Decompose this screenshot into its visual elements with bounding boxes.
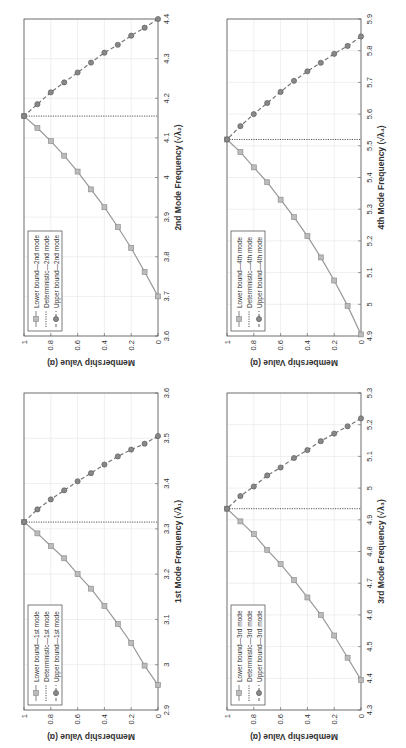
lower-bound-marker (156, 683, 161, 688)
lower-bound-marker (318, 612, 323, 617)
legend-entry: Upper bound—2nd mode (53, 235, 61, 308)
chart-panel-mode2: 3.63.73.83.944.14.24.34.400.20.40.60.812… (0, 0, 203, 374)
legend-entry: Upper bound—4th mode (256, 236, 264, 308)
upper-bound-marker (142, 441, 147, 446)
lower-bound-marker (48, 544, 53, 549)
lower-bound-marker (251, 165, 256, 170)
upper-bound-marker (21, 519, 26, 524)
x-tick-label: 5.1 (365, 267, 374, 277)
x-tick-label: 3.8 (162, 252, 171, 262)
legend-entry: Deterministic—3rd mode (246, 610, 253, 682)
upper-bound-marker (358, 34, 363, 39)
y-tick-label: 0.4 (100, 714, 109, 724)
upper-bound-marker (62, 488, 67, 493)
legend: Lower bound—4th modeDeterministic—4th mo… (231, 231, 265, 331)
legend-entry: Deterministic—2nd mode (43, 235, 50, 308)
y-tick-label: 1 (20, 714, 29, 718)
y-axis-label: Membership Value (α) (47, 732, 135, 742)
upper-bound-marker (75, 479, 80, 484)
upper-bound-marker (332, 51, 337, 56)
lower-bound-marker (102, 603, 107, 608)
upper-bound-marker (115, 42, 120, 47)
upper-bound-marker (155, 16, 160, 21)
legend-entry: Upper bound—1st mode (53, 611, 61, 682)
legend-entry: Lower bound—4th mode (236, 236, 243, 308)
lower-bound-marker (305, 595, 310, 600)
y-tick-label: 0.6 (73, 340, 82, 350)
y-tick-label: 0.8 (249, 340, 258, 350)
lower-bound-marker (129, 640, 134, 645)
upper-bound-marker (102, 50, 107, 55)
upper-bound-marker (155, 433, 160, 438)
legend-entry: Deterministic—1st mode (43, 611, 50, 682)
upper-bound-marker (35, 102, 40, 107)
x-tick-label: 5.4 (365, 172, 374, 182)
upper-bound-marker (88, 60, 93, 65)
upper-bound-marker (35, 507, 40, 512)
lower-bound-marker (102, 205, 107, 210)
upper-bound-marker (278, 89, 283, 94)
x-tick-label: 5.1 (365, 451, 374, 461)
upper-bound-marker (75, 70, 80, 75)
y-tick-label: 0 (357, 714, 366, 718)
upper-bound-marker (62, 80, 67, 85)
y-tick-label: 0 (154, 714, 163, 718)
x-tick-label: 5.8 (365, 45, 374, 55)
lower-bound-marker (115, 225, 120, 230)
chart-panel-mode1: 2.933.13.23.33.43.53.600.20.40.60.811st … (0, 374, 203, 748)
y-tick-label: 0.8 (46, 340, 55, 350)
upper-bound-marker (21, 113, 26, 118)
upper-bound-marker (291, 78, 296, 83)
upper-bound-marker (102, 462, 107, 467)
x-axis-label: 3rd Mode Frequency (√λ₃) (376, 499, 386, 604)
x-tick-label: 3.2 (162, 569, 171, 579)
y-tick-label: 0.2 (127, 340, 136, 350)
upper-bound-marker (224, 506, 229, 511)
x-tick-label: 5.2 (365, 419, 374, 429)
lower-bound-marker (278, 562, 283, 567)
lower-bound-marker (305, 234, 310, 239)
x-tick-label: 4.3 (365, 705, 374, 715)
x-tick-label: 5.3 (365, 204, 374, 214)
upper-bound-marker (278, 465, 283, 470)
x-tick-label: 4.7 (365, 578, 374, 588)
lower-bound-marker (62, 153, 67, 158)
x-tick-label: 4.9 (365, 515, 374, 525)
y-tick-label: 0 (357, 340, 366, 344)
upper-bound-marker (318, 439, 323, 444)
y-tick-label: 0.6 (276, 340, 285, 350)
x-tick-label: 3.4 (162, 478, 171, 488)
x-tick-label: 5.2 (365, 236, 374, 246)
upper-bound-marker (332, 431, 337, 436)
chart-panel-mode4: 4.955.15.25.35.45.55.65.75.85.900.20.40.… (203, 0, 406, 374)
lower-bound-marker (142, 663, 147, 668)
lower-bound-marker (129, 246, 134, 251)
y-tick-label: 0.4 (303, 340, 312, 350)
y-tick-label: 0 (154, 340, 163, 344)
upper-bound-marker (291, 455, 296, 460)
x-axis-label: 4th Mode Frequency (√λ₄) (376, 125, 386, 229)
upper-bound-marker (224, 137, 229, 142)
x-tick-label: 2.9 (162, 705, 171, 715)
lower-bound-marker (75, 572, 80, 577)
upper-bound-marker (265, 100, 270, 105)
legend-entry: Deterministic—4th mode (246, 236, 253, 308)
y-tick-label: 0.8 (249, 714, 258, 724)
lower-bound-marker (35, 125, 40, 130)
upper-bound-marker (358, 416, 363, 421)
x-axis-label: 1st Mode Frequency (√λ₁) (173, 500, 183, 603)
upper-bound-marker (142, 25, 147, 30)
x-tick-label: 3.6 (162, 331, 171, 341)
lower-bound-marker (292, 578, 297, 583)
x-tick-label: 4.1 (162, 133, 171, 143)
lower-bound-marker (332, 278, 337, 283)
y-tick-label: 0.2 (330, 714, 339, 724)
x-tick-label: 5 (365, 302, 374, 306)
x-tick-label: 5.3 (365, 388, 374, 398)
legend-entry: Upper bound—3rd mode (256, 610, 264, 682)
y-tick-label: 1 (20, 340, 29, 344)
lower-bound-marker (359, 677, 364, 682)
x-tick-label: 4.3 (162, 53, 171, 63)
lower-bound-marker (238, 519, 243, 524)
upper-bound-marker (305, 447, 310, 452)
